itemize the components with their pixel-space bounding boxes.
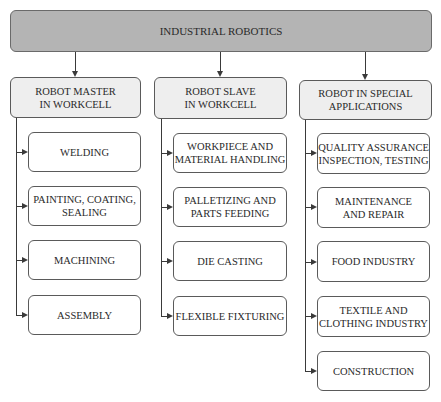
category-label: ROBOT SLAVE IN WORKCELL <box>185 85 257 111</box>
root-label: INDUSTRIAL ROBOTICS <box>160 25 283 38</box>
leaf-label: WORKPIECE AND MATERIAL HANDLING <box>175 140 286 166</box>
spine-col-2 <box>305 120 306 371</box>
leaf-label: QUALITY ASSURANCE INSPECTION, TESTING <box>318 141 429 167</box>
leaf-construction: CONSTRUCTION <box>317 351 430 391</box>
leaf-assembly: ASSEMBLY <box>28 295 141 335</box>
leaf-palletizing: PALLETIZING AND PARTS FEEDING <box>173 187 287 227</box>
leaf-flexible-fixturing: FLEXIBLE FIXTURING <box>173 296 287 336</box>
leaf-label: MACHINING <box>54 254 115 267</box>
leaf-label: DIE CASTING <box>197 255 263 268</box>
category-robot-special: ROBOT IN SPECIAL APPLICATIONS <box>299 80 432 120</box>
leaf-label: MAINTENANCE AND REPAIR <box>335 195 412 221</box>
leaf-label: CONSTRUCTION <box>333 365 414 378</box>
connector-root-to-cat-1 <box>220 52 221 71</box>
root-node-industrial-robotics: INDUSTRIAL ROBOTICS <box>10 10 432 52</box>
spine-col-0 <box>16 118 17 315</box>
leaf-label: ASSEMBLY <box>57 309 112 322</box>
leaf-food-industry: FOOD INDUSTRY <box>317 241 430 282</box>
category-robot-slave: ROBOT SLAVE IN WORKCELL <box>154 77 287 119</box>
spine-col-1 <box>161 119 162 316</box>
leaf-label: FLEXIBLE FIXTURING <box>176 310 285 323</box>
leaf-label: PALLETIZING AND PARTS FEEDING <box>184 194 275 220</box>
category-robot-master: ROBOT MASTER IN WORKCELL <box>10 77 141 118</box>
leaf-label: FOOD INDUSTRY <box>332 255 416 268</box>
leaf-label: PAINTING, COATING, SEALING <box>33 193 136 219</box>
leaf-label: TEXTILE AND CLOTHING INDUSTRY <box>319 304 428 330</box>
leaf-label: WELDING <box>60 146 109 159</box>
category-label: ROBOT IN SPECIAL APPLICATIONS <box>318 87 412 113</box>
leaf-machining: MACHINING <box>28 240 141 280</box>
leaf-textile-clothing: TEXTILE AND CLOTHING INDUSTRY <box>317 296 430 337</box>
connector-root-to-cat-2 <box>365 52 366 74</box>
category-label: ROBOT MASTER IN WORKCELL <box>35 85 116 111</box>
leaf-painting: PAINTING, COATING, SEALING <box>28 186 141 226</box>
connector-root-to-cat-0 <box>75 52 76 71</box>
leaf-quality-assurance: QUALITY ASSURANCE INSPECTION, TESTING <box>317 133 430 174</box>
leaf-maintenance-repair: MAINTENANCE AND REPAIR <box>317 187 430 228</box>
leaf-die-casting: DIE CASTING <box>173 241 287 281</box>
leaf-welding: WELDING <box>28 132 141 172</box>
leaf-workpiece-handling: WORKPIECE AND MATERIAL HANDLING <box>173 133 287 173</box>
